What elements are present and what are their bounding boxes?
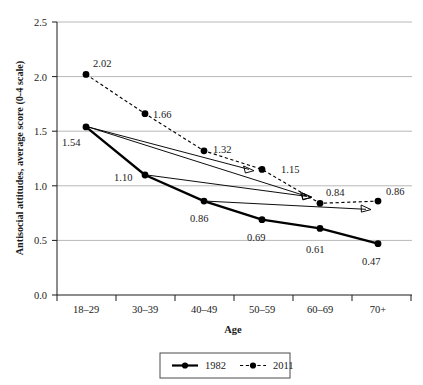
data-point-2011-40-49 [201, 147, 208, 154]
data-point-1982-50-59 [259, 216, 266, 223]
x-tick-marks [57, 295, 411, 301]
data-label-1982-40-49: 0.86 [190, 213, 208, 224]
data-label-2011-40-49: 1.32 [213, 144, 231, 155]
series-line-2011 [86, 74, 378, 203]
y-tick-label-3: 1.5 [34, 126, 47, 137]
data-label-2011-60-69: 0.84 [326, 187, 345, 198]
legend-swatch-marker-1982 [182, 362, 188, 368]
x-label-60-69: 60–69 [307, 304, 333, 315]
y-tick-labels: 2.5 2.0 1.5 1.0 0.5 0.0 [34, 17, 47, 301]
cohort-arrow-4-head [361, 205, 371, 212]
data-label-2011-50-59: 1.15 [281, 164, 299, 175]
data-point-2011-70-plus [375, 198, 382, 205]
chart-legend: 1982 2011 [160, 353, 294, 378]
antisocial-attitudes-by-age-chart: 2.5 2.0 1.5 1.0 0.5 0.0 18–29 30–39 40–4… [0, 0, 423, 385]
y-tick-label-5: 2.5 [34, 17, 47, 28]
data-labels-2011: 2.02 1.66 1.32 1.15 0.84 0.86 [93, 58, 404, 198]
data-point-1982-70-plus [375, 240, 382, 247]
x-label-70-plus: 70+ [370, 304, 387, 315]
y-tick-label-1: 0.5 [34, 235, 47, 246]
gridlines [57, 22, 412, 240]
data-label-2011-18-29: 2.02 [93, 58, 111, 69]
chart-canvas: 2.5 2.0 1.5 1.0 0.5 0.0 18–29 30–39 40–4… [0, 0, 423, 385]
data-label-2011-70-plus: 0.86 [386, 186, 404, 197]
data-label-1982-18-29: 1.54 [62, 137, 81, 148]
data-label-1982-60-69: 0.61 [306, 244, 324, 255]
y-axis-title: Antisocial attitudes, average score (0-4… [14, 61, 26, 255]
x-label-30-39: 30–39 [132, 304, 158, 315]
data-point-2011-18-29 [83, 71, 90, 78]
data-point-1982-18-29 [83, 124, 90, 131]
x-category-labels: 18–29 30–39 40–49 50–59 60–69 70+ [73, 304, 386, 315]
data-point-1982-30-39 [142, 172, 149, 179]
data-point-2011-50-59 [259, 166, 266, 173]
y-tick-marks [52, 22, 57, 295]
y-tick-label-0: 0.0 [34, 290, 47, 301]
x-axis-title: Age [224, 324, 242, 335]
x-label-40-49: 40–49 [191, 304, 217, 315]
legend-label-2011: 2011 [273, 360, 294, 371]
legend-swatch-marker-2011 [250, 362, 256, 368]
y-tick-label-4: 2.0 [34, 72, 47, 83]
data-point-2011-30-39 [142, 110, 149, 117]
data-point-1982-40-49 [201, 198, 208, 205]
data-label-1982-50-59: 0.69 [247, 232, 265, 243]
legend-label-1982: 1982 [205, 360, 226, 371]
x-label-50-59: 50–59 [249, 304, 275, 315]
x-label-18-29: 18–29 [73, 304, 99, 315]
data-point-1982-60-69 [317, 225, 324, 232]
data-point-2011-60-69 [317, 200, 324, 207]
y-tick-label-2: 1.0 [34, 181, 47, 192]
cohort-arrows [88, 127, 371, 212]
data-label-1982-30-39: 1.10 [114, 172, 132, 183]
data-label-1982-70-plus: 0.47 [362, 256, 380, 267]
data-label-2011-30-39: 1.66 [153, 109, 171, 120]
